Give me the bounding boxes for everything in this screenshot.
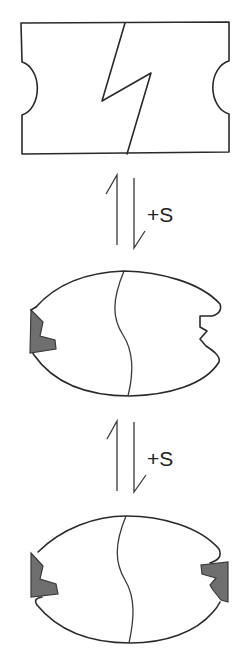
forward-half-arrow [106, 175, 117, 245]
equilibrium-arrows-1 [106, 175, 145, 248]
zigzag-divider [102, 23, 151, 154]
oval-outline [33, 271, 221, 396]
left-notch-edge [31, 307, 36, 310]
ligand-s-left [30, 310, 56, 353]
oval-outline [36, 516, 221, 643]
stage-2-oval [30, 271, 221, 396]
wavy-divider [117, 516, 133, 643]
forward-half-arrow [107, 421, 117, 491]
add-s-label-2: +S [147, 448, 173, 469]
stage-1-block [21, 22, 229, 154]
equilibrium-arrows-2 [107, 421, 146, 492]
stage-3-oval [31, 516, 228, 643]
diagram-canvas [0, 0, 248, 667]
reverse-half-arrow [134, 178, 145, 248]
add-s-label-1: +S [147, 204, 173, 225]
reverse-half-arrow [134, 422, 146, 492]
ligand-s-left [31, 553, 58, 597]
ligand-s-right [201, 562, 228, 602]
wavy-divider [115, 271, 132, 396]
